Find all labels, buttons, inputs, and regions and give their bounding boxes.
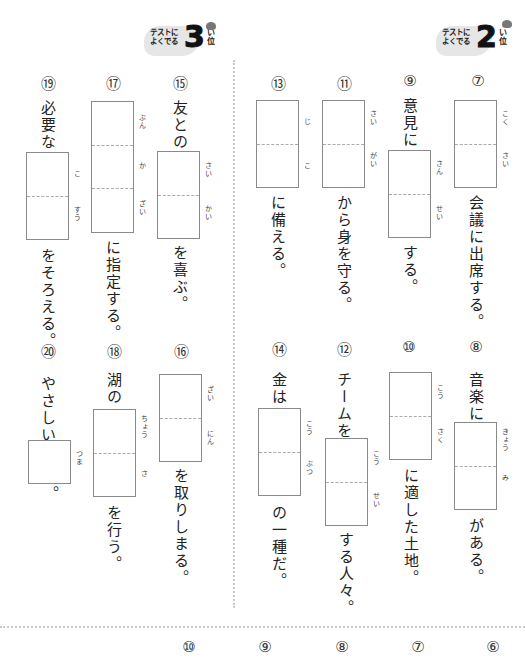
kanji-answer-box[interactable]	[256, 100, 299, 188]
question-number: ⑪	[337, 72, 352, 93]
kanji-answer-box[interactable]	[26, 152, 69, 240]
kanji-answer-box[interactable]	[322, 100, 365, 188]
kanji-answer-box[interactable]	[325, 438, 368, 526]
kanji-answer-box[interactable]	[157, 151, 200, 239]
kanji-answer-box[interactable]	[454, 100, 497, 188]
kanji-answer-box[interactable]	[91, 101, 134, 233]
kanji-answer-box[interactable]	[28, 440, 71, 484]
question-number: ⑮	[173, 72, 188, 93]
question-number: ⑨	[403, 72, 416, 90]
kanji-answer-box[interactable]	[93, 409, 136, 497]
question-number: ⑫	[337, 338, 352, 359]
question-number: ⑱	[107, 340, 122, 361]
kanji-answer-box[interactable]	[388, 150, 431, 238]
bird-icon	[502, 20, 512, 28]
question-number-10: ⑩	[182, 638, 195, 656]
question-number: ⑭	[272, 338, 287, 359]
bird-icon	[206, 22, 216, 30]
question-number: ⑰	[106, 72, 121, 93]
question-number: ⑲	[41, 72, 56, 93]
question-number-7: ⑦	[411, 638, 424, 656]
question-number: ⑩	[402, 338, 415, 356]
rank-number: 3	[184, 22, 205, 52]
question-number: ⑬	[271, 72, 286, 93]
frequency-rank-2-badge: テストによくでる 2 い位	[436, 22, 508, 52]
question-number-6: ⑥	[486, 638, 499, 656]
question-number: ⑯	[174, 340, 189, 361]
question-number: ⑳	[41, 340, 56, 361]
question-number: ⑧	[469, 338, 482, 356]
question-number: ⑦	[471, 72, 484, 90]
kanji-answer-box[interactable]	[454, 422, 497, 510]
question-number-8: ⑧	[335, 638, 348, 656]
column-divider	[233, 60, 235, 608]
rank-number: 2	[476, 22, 497, 52]
question-number-9: ⑨	[258, 638, 271, 656]
kanji-answer-box[interactable]	[389, 372, 432, 460]
section-divider	[0, 626, 525, 628]
frequency-rank-3-badge: テストによくでる 3 い位	[144, 22, 216, 52]
kanji-answer-box[interactable]	[258, 408, 301, 496]
kanji-answer-box[interactable]	[159, 374, 202, 462]
